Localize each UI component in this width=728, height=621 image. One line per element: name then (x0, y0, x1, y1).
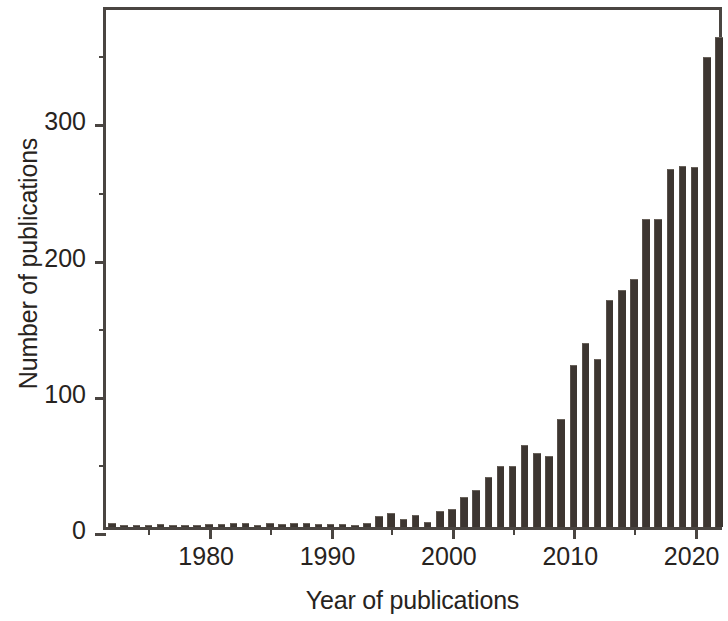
y-tick-0 (95, 533, 106, 536)
bar-2019 (679, 166, 687, 527)
x-tick-minor-2005 (513, 527, 515, 535)
bar-2011 (582, 343, 590, 527)
bar-1983 (242, 523, 250, 527)
bar-1998 (424, 522, 432, 527)
bar-1977 (169, 525, 177, 527)
x-tick-minor-2015 (634, 527, 636, 535)
x-tick-2000 (452, 527, 455, 539)
y-tick-200 (95, 261, 106, 264)
bar-2018 (667, 169, 675, 527)
x-tick-minor-1985 (270, 527, 272, 535)
bar-1992 (351, 525, 359, 527)
y-tick-label-0: 0 (0, 516, 86, 545)
bar-1986 (278, 524, 286, 527)
publication-bar-chart: Number of publications 0100200300 Year o… (0, 0, 728, 621)
y-tick-300 (95, 124, 106, 127)
bar-1981 (218, 524, 226, 527)
x-tick-label-2020: 2020 (622, 542, 728, 571)
bar-1982 (230, 523, 238, 527)
bar-1994 (375, 516, 383, 527)
y-tick-label-300: 300 (0, 107, 86, 136)
y-tick-label-100: 100 (0, 380, 86, 409)
bar-1995 (387, 513, 395, 527)
bar-2004 (497, 466, 505, 527)
bar-1999 (436, 511, 444, 527)
bar-2003 (485, 477, 493, 527)
bar-1993 (363, 523, 371, 527)
y-tick-minor-250 (99, 193, 106, 195)
bar-1979 (193, 525, 201, 527)
x-tick-label-1980: 1980 (136, 542, 276, 571)
x-tick-2010 (573, 527, 576, 539)
bar-1987 (290, 523, 298, 527)
bar-2016 (642, 219, 650, 527)
bar-1978 (181, 525, 189, 527)
bar-2012 (594, 359, 602, 527)
bar-1974 (133, 525, 141, 527)
x-tick-label-2000: 2000 (379, 542, 519, 571)
bar-2021 (703, 57, 711, 527)
bar-1989 (315, 524, 323, 527)
x-tick-minor-1975 (148, 527, 150, 535)
bar-2001 (460, 497, 468, 527)
y-tick-minor-50 (99, 465, 106, 467)
bar-2013 (606, 300, 614, 527)
bar-1984 (254, 525, 262, 527)
x-tick-label-2010: 2010 (500, 542, 640, 571)
y-tick-label-200: 200 (0, 244, 86, 273)
x-tick-1980 (209, 527, 212, 539)
y-tick-minor-150 (99, 329, 106, 331)
y-tick-100 (95, 397, 106, 400)
x-tick-1990 (331, 527, 334, 539)
bar-1997 (412, 515, 420, 527)
plot-area: 0100200300 (103, 7, 722, 530)
bar-2014 (618, 290, 626, 527)
bar-2005 (509, 466, 517, 527)
bar-2010 (570, 365, 578, 527)
bar-1972 (108, 523, 116, 527)
bar-2002 (472, 490, 480, 527)
x-tick-2020 (695, 527, 698, 539)
bar-1991 (339, 524, 347, 527)
bar-1976 (157, 524, 165, 527)
bar-2022 (715, 37, 723, 527)
y-tick-minor-350 (99, 56, 106, 58)
bar-2007 (533, 453, 541, 527)
x-tick-label-1990: 1990 (258, 542, 398, 571)
bar-series (106, 10, 719, 527)
bar-2017 (654, 219, 662, 527)
x-axis-title: Year of publications (103, 586, 722, 615)
bar-2009 (557, 419, 565, 527)
bar-2020 (691, 167, 699, 527)
bar-2015 (630, 279, 638, 527)
x-tick-minor-1995 (391, 527, 393, 535)
bar-2008 (545, 456, 553, 527)
bar-1996 (400, 519, 408, 527)
bar-1973 (120, 525, 128, 527)
bar-2006 (521, 445, 529, 527)
bar-1988 (303, 523, 311, 527)
bar-2000 (448, 509, 456, 527)
